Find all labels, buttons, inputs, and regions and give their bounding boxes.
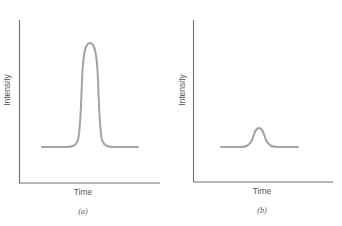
panel-a-curve bbox=[42, 43, 138, 147]
panel-b-ylabel: Intensity bbox=[177, 73, 187, 105]
panel-a-axes bbox=[20, 20, 161, 183]
panel-b-axes bbox=[194, 20, 334, 182]
panel-a-ylabel: Intensity bbox=[2, 73, 12, 105]
panel-b: Intensity Time (b) bbox=[177, 20, 333, 215]
panel-b-curve bbox=[221, 128, 298, 147]
panel-b-xlabel: Time bbox=[253, 186, 272, 196]
panel-a-xlabel: Time bbox=[74, 187, 93, 197]
panel-a-caption: (a) bbox=[78, 207, 88, 216]
figure: Intensity Time (a) Intensity Time (b) bbox=[0, 0, 342, 226]
panel-a: Intensity Time (a) bbox=[2, 20, 160, 216]
panel-b-caption: (b) bbox=[257, 206, 267, 215]
